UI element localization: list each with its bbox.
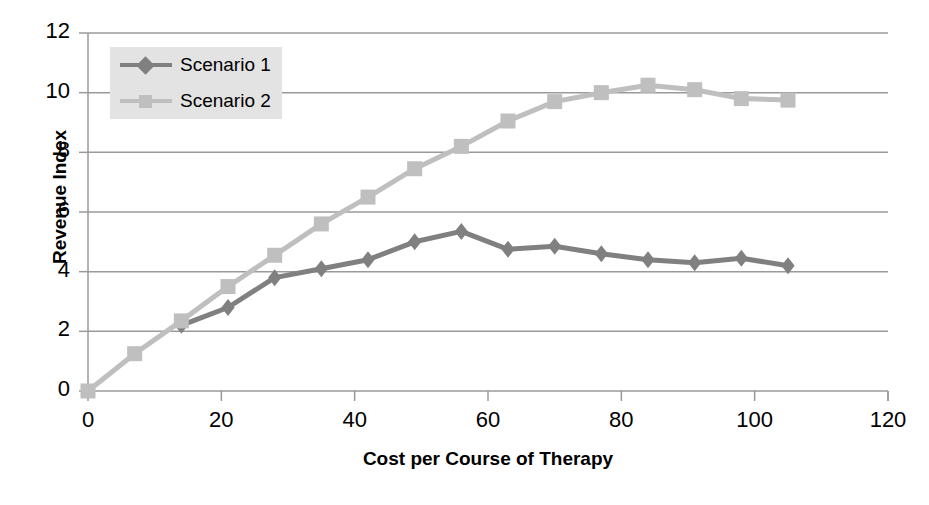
y-tick-label: 12 — [30, 18, 70, 44]
x-tick-label: 40 — [325, 407, 385, 433]
diamond-marker-icon — [136, 56, 154, 74]
x-tick-label: 60 — [458, 407, 518, 433]
x-tick-label: 100 — [725, 407, 785, 433]
legend-label-scenario-2: Scenario 2 — [180, 90, 271, 112]
x-tick-label: 20 — [191, 407, 251, 433]
legend-item-scenario-2[interactable]: Scenario 2 — [110, 83, 282, 119]
x-tick-label: 80 — [591, 407, 651, 433]
chart-legend: Scenario 1 Scenario 2 — [110, 47, 282, 119]
legend-swatch-scenario-1 — [120, 55, 172, 75]
chart-container: 024681012 020406080100120 Revenue Index … — [0, 0, 929, 505]
x-tick-label: 0 — [58, 407, 118, 433]
legend-swatch-scenario-2 — [120, 91, 172, 111]
y-tick-label: 0 — [30, 376, 70, 402]
y-tick-label: 2 — [30, 316, 70, 342]
x-axis-title: Cost per Course of Therapy — [88, 448, 888, 470]
data-series-layer — [81, 78, 796, 399]
x-tick-label: 120 — [858, 407, 918, 433]
legend-item-scenario-1[interactable]: Scenario 1 — [110, 47, 282, 83]
legend-label-scenario-1: Scenario 1 — [180, 54, 271, 76]
square-marker-icon — [139, 95, 152, 108]
y-axis-title: Revenue Index — [49, 97, 71, 297]
